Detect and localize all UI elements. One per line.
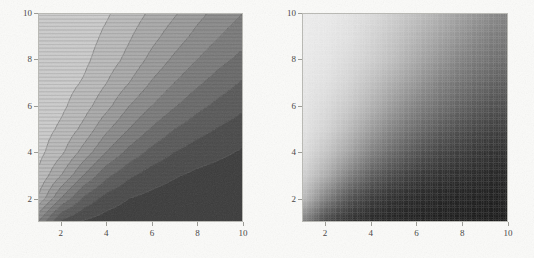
x-tick-mark: [106, 222, 107, 226]
x-tick-label: 4: [368, 229, 373, 238]
x-tick-label: 2: [59, 229, 64, 238]
y-tick-mark: [298, 152, 302, 153]
y-tick-label: 6: [278, 101, 296, 110]
x-tick-mark: [243, 222, 244, 226]
y-tick-mark: [34, 106, 38, 107]
density-plot-frame: [302, 13, 508, 222]
y-tick-mark: [298, 59, 302, 60]
x-tick-label: 8: [460, 229, 465, 238]
y-tick-label: 10: [278, 9, 296, 18]
density-plot-panel: 246810246810: [267, 0, 534, 258]
y-tick-label: 2: [278, 194, 296, 203]
x-tick-mark: [508, 222, 509, 226]
contour-plot-frame: [38, 13, 243, 222]
y-tick-label: 2: [14, 194, 32, 203]
y-tick-label: 6: [14, 101, 32, 110]
y-tick-mark: [34, 199, 38, 200]
x-tick-mark: [61, 222, 62, 226]
x-tick-label: 10: [239, 229, 248, 238]
y-tick-mark: [34, 13, 38, 14]
x-tick-label: 10: [504, 229, 513, 238]
y-tick-label: 4: [14, 148, 32, 157]
contour-plot-canvas: [39, 14, 242, 221]
y-tick-mark: [298, 199, 302, 200]
x-tick-label: 2: [323, 229, 328, 238]
y-tick-label: 8: [278, 55, 296, 64]
x-tick-label: 6: [414, 229, 419, 238]
x-tick-mark: [416, 222, 417, 226]
x-tick-label: 6: [150, 229, 155, 238]
x-tick-label: 8: [195, 229, 200, 238]
density-plot-canvas: [303, 14, 507, 221]
figure-container: 246810246810 246810246810: [0, 0, 534, 258]
x-tick-mark: [197, 222, 198, 226]
x-tick-mark: [325, 222, 326, 226]
y-tick-mark: [34, 59, 38, 60]
y-tick-label: 4: [278, 148, 296, 157]
y-tick-mark: [298, 106, 302, 107]
contour-plot-panel: 246810246810: [0, 0, 267, 258]
y-tick-mark: [34, 152, 38, 153]
x-tick-mark: [371, 222, 372, 226]
x-tick-mark: [152, 222, 153, 226]
y-tick-mark: [298, 13, 302, 14]
x-tick-mark: [462, 222, 463, 226]
x-tick-label: 4: [104, 229, 109, 238]
y-tick-label: 10: [14, 9, 32, 18]
y-tick-label: 8: [14, 55, 32, 64]
